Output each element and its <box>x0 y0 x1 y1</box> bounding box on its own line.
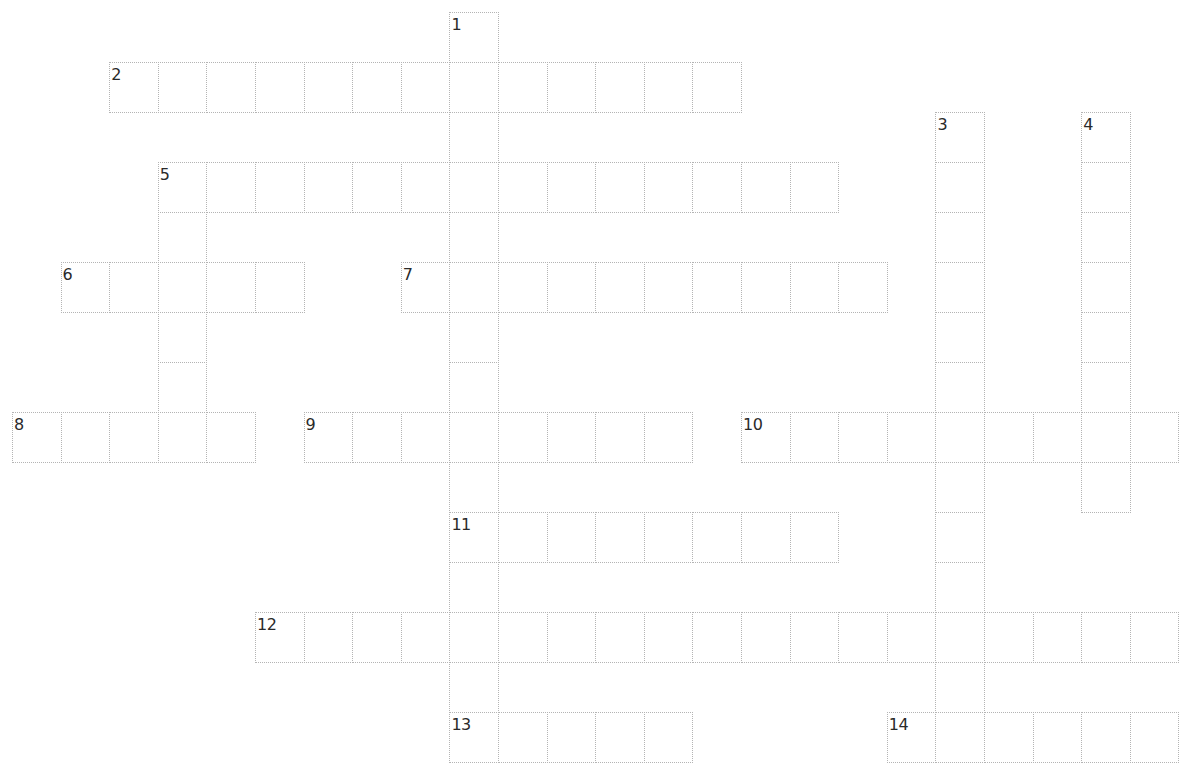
crossword-cell[interactable] <box>741 162 791 213</box>
crossword-cell[interactable] <box>595 62 645 113</box>
crossword-cell[interactable] <box>741 262 791 313</box>
crossword-cell[interactable] <box>158 262 208 313</box>
crossword-cell[interactable] <box>1033 712 1083 763</box>
crossword-cell[interactable] <box>304 162 354 213</box>
crossword-cell[interactable] <box>547 62 597 113</box>
crossword-cell[interactable] <box>449 662 499 713</box>
crossword-cell[interactable] <box>935 512 985 563</box>
crossword-cell[interactable]: 13 <box>449 712 499 763</box>
crossword-cell[interactable] <box>498 162 548 213</box>
crossword-cell[interactable] <box>158 312 208 363</box>
crossword-cell[interactable] <box>304 612 354 663</box>
crossword-cell[interactable] <box>449 562 499 613</box>
crossword-cell[interactable] <box>595 262 645 313</box>
crossword-cell[interactable] <box>401 62 451 113</box>
crossword-cell[interactable] <box>547 512 597 563</box>
crossword-cell[interactable] <box>935 612 985 663</box>
crossword-cell[interactable] <box>352 412 402 463</box>
crossword-cell[interactable]: 6 <box>61 262 111 313</box>
crossword-cell[interactable] <box>547 612 597 663</box>
crossword-cell[interactable] <box>935 312 985 363</box>
crossword-cell[interactable]: 8 <box>12 412 62 463</box>
crossword-cell[interactable] <box>644 512 694 563</box>
crossword-cell[interactable] <box>401 162 451 213</box>
crossword-cell[interactable] <box>595 412 645 463</box>
crossword-cell[interactable]: 4 <box>1081 112 1131 163</box>
crossword-cell[interactable] <box>158 412 208 463</box>
crossword-cell[interactable] <box>352 62 402 113</box>
crossword-cell[interactable] <box>790 412 840 463</box>
crossword-cell[interactable] <box>498 512 548 563</box>
crossword-cell[interactable] <box>692 512 742 563</box>
crossword-cell[interactable] <box>595 512 645 563</box>
crossword-cell[interactable] <box>838 412 888 463</box>
crossword-cell[interactable] <box>449 62 499 113</box>
crossword-cell[interactable] <box>984 712 1034 763</box>
crossword-cell[interactable] <box>1130 712 1180 763</box>
crossword-cell[interactable] <box>935 662 985 713</box>
crossword-cell[interactable] <box>1130 412 1180 463</box>
crossword-cell[interactable] <box>644 262 694 313</box>
crossword-cell[interactable] <box>595 612 645 663</box>
crossword-cell[interactable] <box>109 412 159 463</box>
crossword-cell[interactable] <box>838 612 888 663</box>
crossword-cell[interactable] <box>790 612 840 663</box>
crossword-cell[interactable]: 9 <box>304 412 354 463</box>
crossword-cell[interactable] <box>498 412 548 463</box>
crossword-cell[interactable] <box>595 712 645 763</box>
crossword-cell[interactable] <box>984 412 1034 463</box>
crossword-cell[interactable] <box>935 212 985 263</box>
crossword-cell[interactable] <box>449 112 499 163</box>
crossword-cell[interactable] <box>449 312 499 363</box>
crossword-cell[interactable] <box>741 612 791 663</box>
crossword-cell[interactable] <box>935 462 985 513</box>
crossword-cell[interactable] <box>887 412 937 463</box>
crossword-cell[interactable] <box>595 162 645 213</box>
crossword-cell[interactable] <box>158 62 208 113</box>
crossword-cell[interactable] <box>255 62 305 113</box>
crossword-cell[interactable] <box>547 712 597 763</box>
crossword-cell[interactable] <box>935 412 985 463</box>
crossword-cell[interactable] <box>644 62 694 113</box>
crossword-cell[interactable]: 11 <box>449 512 499 563</box>
crossword-cell[interactable] <box>1081 712 1131 763</box>
crossword-cell[interactable] <box>1033 412 1083 463</box>
crossword-cell[interactable] <box>498 262 548 313</box>
crossword-cell[interactable] <box>1033 612 1083 663</box>
crossword-cell[interactable] <box>304 62 354 113</box>
crossword-cell[interactable] <box>158 212 208 263</box>
crossword-cell[interactable] <box>1081 312 1131 363</box>
crossword-cell[interactable] <box>547 162 597 213</box>
crossword-cell[interactable] <box>352 612 402 663</box>
crossword-cell[interactable] <box>547 412 597 463</box>
crossword-cell[interactable] <box>255 262 305 313</box>
crossword-cell[interactable]: 12 <box>255 612 305 663</box>
crossword-cell[interactable] <box>61 412 111 463</box>
crossword-cell[interactable] <box>1081 362 1131 413</box>
crossword-cell[interactable] <box>449 412 499 463</box>
crossword-cell[interactable] <box>401 412 451 463</box>
crossword-cell[interactable]: 3 <box>935 112 985 163</box>
crossword-cell[interactable] <box>935 162 985 213</box>
crossword-cell[interactable] <box>935 562 985 613</box>
crossword-cell[interactable] <box>1081 612 1131 663</box>
crossword-cell[interactable] <box>644 412 694 463</box>
crossword-cell[interactable] <box>692 162 742 213</box>
crossword-cell[interactable] <box>1081 162 1131 213</box>
crossword-cell[interactable]: 2 <box>109 62 159 113</box>
crossword-cell[interactable] <box>449 262 499 313</box>
crossword-cell[interactable] <box>547 262 597 313</box>
crossword-cell[interactable] <box>449 462 499 513</box>
crossword-cell[interactable] <box>1081 462 1131 513</box>
crossword-cell[interactable] <box>1081 262 1131 313</box>
crossword-cell[interactable] <box>644 162 694 213</box>
crossword-cell[interactable] <box>206 62 256 113</box>
crossword-cell[interactable] <box>692 262 742 313</box>
crossword-cell[interactable] <box>984 612 1034 663</box>
crossword-cell[interactable] <box>741 512 791 563</box>
crossword-cell[interactable] <box>449 612 499 663</box>
crossword-cell[interactable] <box>206 412 256 463</box>
crossword-cell[interactable] <box>1130 612 1180 663</box>
crossword-cell[interactable] <box>158 362 208 413</box>
crossword-cell[interactable] <box>838 262 888 313</box>
